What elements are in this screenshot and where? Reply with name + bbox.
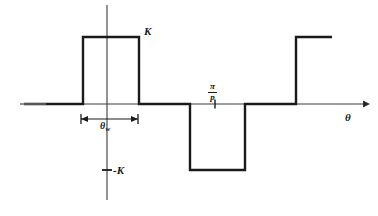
- pulse-width-right-arrowhead: [131, 116, 138, 122]
- waveform-trace: [24, 37, 332, 170]
- half-period-label: π p: [208, 82, 217, 103]
- pulse-width-label: θw: [100, 121, 110, 133]
- negative-amplitude-label: -K: [113, 165, 124, 176]
- half-period-denominator: p: [209, 93, 216, 102]
- half-period-numerator: π: [209, 82, 216, 91]
- waveform-figure: K -K θ θw π p: [0, 0, 378, 216]
- x-axis-arrowhead: [363, 100, 370, 107]
- pulse-width-subscript: w: [105, 125, 110, 133]
- waveform-plot-svg: [0, 0, 378, 216]
- x-axis-label: θ: [345, 112, 351, 123]
- pulse-width-left-arrowhead: [81, 116, 88, 122]
- positive-amplitude-label: K: [144, 26, 152, 37]
